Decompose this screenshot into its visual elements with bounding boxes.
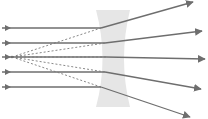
virtual-ray	[12, 43, 105, 57]
lens-ray-diagram	[0, 0, 208, 119]
arrow-right-icon	[5, 84, 11, 90]
focal-point	[11, 56, 13, 58]
ray-5	[2, 57, 190, 117]
virtual-ray	[12, 57, 105, 72]
arrow-right-icon	[5, 54, 11, 60]
arrow-right-icon	[5, 25, 11, 31]
arrow-right-icon	[5, 69, 11, 75]
arrow-right-icon	[5, 40, 11, 46]
